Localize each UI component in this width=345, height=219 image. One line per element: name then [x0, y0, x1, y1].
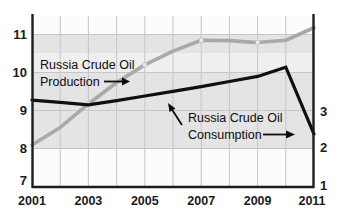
- annotation-production-line2: Production: [40, 75, 100, 89]
- x-tick-2011: 2011: [298, 194, 325, 208]
- x-tick-2009: 2009: [244, 194, 272, 208]
- annotation-consumption-line2: Consumption: [188, 128, 262, 142]
- annotation-production-line1: Russia Crude Oil: [40, 58, 134, 72]
- left-tick-9: 9: [20, 103, 27, 118]
- x-tick-2003: 2003: [74, 194, 102, 208]
- right-tick-1: 1: [320, 178, 327, 193]
- x-axis-ticks: 2001 2003 2005 2007 2009 2011: [18, 194, 326, 208]
- left-tick-7: 7: [20, 173, 27, 188]
- left-tick-8: 8: [20, 141, 27, 156]
- right-tick-3: 3: [320, 104, 327, 119]
- marker-2009: [256, 41, 260, 45]
- marker-2005: [143, 63, 147, 67]
- left-tick-11: 11: [13, 27, 27, 42]
- annotation-consumption-line1: Russia Crude Oil: [188, 111, 282, 125]
- x-tick-2001: 2001: [18, 194, 46, 208]
- right-tick-2: 2: [320, 140, 327, 155]
- x-tick-2007: 2007: [187, 194, 215, 208]
- x-tick-2005: 2005: [131, 194, 159, 208]
- dual-axis-line-chart: 11 10 9 8 7 3 2 1 2001 2003 2005 2007 20…: [0, 0, 345, 219]
- right-axis-ticks: 3 2 1: [320, 104, 327, 193]
- left-axis-ticks: 11 10 9 8 7: [13, 27, 27, 188]
- marker-2007: [199, 38, 203, 42]
- left-tick-10: 10: [13, 65, 27, 80]
- chart-container: 11 10 9 8 7 3 2 1 2001 2003 2005 2007 20…: [0, 0, 345, 219]
